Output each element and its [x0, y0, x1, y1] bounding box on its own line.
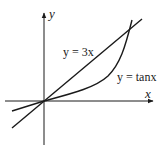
x-axis-label: x: [145, 88, 151, 100]
y-axis-label: y: [49, 8, 55, 20]
tan-curve-label: y = tanx: [117, 71, 156, 83]
curve-y-tanx: [12, 20, 132, 111]
line-label: y = 3x: [63, 46, 94, 58]
graph-figure: y x y = 3x y = tanx: [0, 0, 160, 149]
